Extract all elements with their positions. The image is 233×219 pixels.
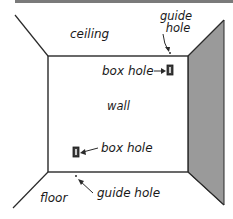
floor-label: floor <box>40 192 67 204</box>
top-guide-hole-arrowhead-icon <box>165 47 170 52</box>
bottom-guide-hole-icon <box>75 175 77 177</box>
bottom-box-hole-icon <box>73 147 79 157</box>
top-box-hole-label: box hole <box>102 65 154 77</box>
bottom-guide-hole-label: guide hole <box>97 187 160 199</box>
top-border-bar <box>15 0 233 3</box>
top-box-hole-icon <box>167 65 173 75</box>
top-guide-hole-label-line2: hole <box>160 22 196 34</box>
room-diagram: ceiling guide hole box hole wall box hol… <box>0 0 233 219</box>
ceiling-label: ceiling <box>70 28 109 40</box>
ceiling-left-edge <box>15 15 48 56</box>
wall-label: wall <box>107 100 130 112</box>
bottom-box-hole-label: box hole <box>101 142 153 154</box>
top-guide-hole-icon <box>169 52 171 54</box>
